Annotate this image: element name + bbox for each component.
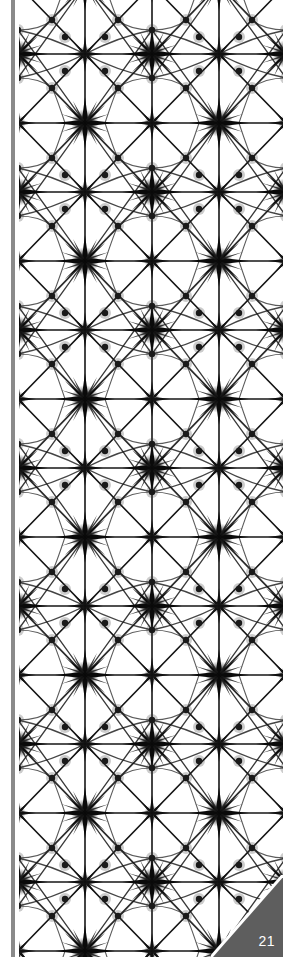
- page-number: 21: [258, 933, 275, 949]
- page-corner-tab: 21: [211, 875, 283, 957]
- book-page: 21: [0, 0, 283, 957]
- shibori-star-pattern: [19, 0, 283, 957]
